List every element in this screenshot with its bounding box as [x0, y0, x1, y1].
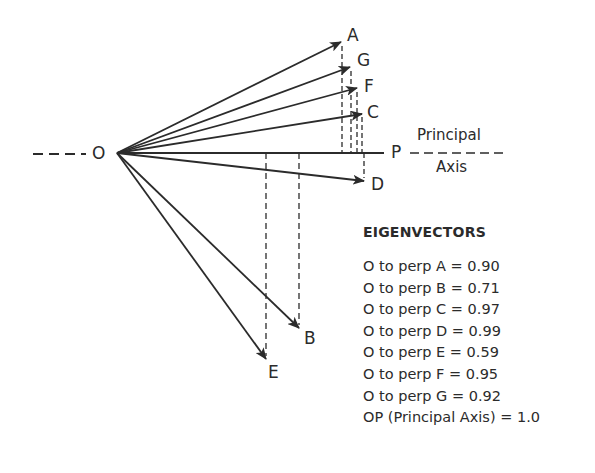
- axis-caption-axis: Axis: [436, 160, 467, 175]
- vector-b: [117, 153, 299, 328]
- origin-label: O: [92, 145, 105, 162]
- legend-row-e: O to perp E = 0.59: [363, 342, 540, 364]
- eigenvectors-legend: EIGENVECTORS O to perp A = 0.90 O to per…: [363, 224, 540, 429]
- vector-g: [117, 67, 350, 153]
- point-label-c: C: [367, 104, 379, 121]
- legend-row-f: O to perp F = 0.95: [363, 364, 540, 386]
- vector-d: [117, 153, 364, 181]
- legend-row-principal-axis: OP (Principal Axis) = 1.0: [363, 407, 540, 429]
- legend-row-a: O to perp A = 0.90: [363, 256, 540, 278]
- legend-row-d: O to perp D = 0.99: [363, 321, 540, 343]
- vector-a: [117, 42, 341, 153]
- vector-e: [117, 153, 266, 359]
- legend-row-g: O to perp G = 0.92: [363, 386, 540, 408]
- axis-end-label-p: P: [391, 144, 401, 161]
- legend-row-b: O to perp B = 0.71: [363, 278, 540, 300]
- point-label-f: F: [364, 78, 374, 95]
- point-label-d: D: [371, 176, 384, 193]
- legend-row-c: O to perp C = 0.97: [363, 299, 540, 321]
- point-label-b: B: [304, 330, 316, 347]
- point-label-g: G: [357, 52, 370, 69]
- axis-caption-principal: Principal: [417, 128, 481, 143]
- point-label-a: A: [347, 27, 359, 44]
- point-label-e: E: [268, 364, 279, 381]
- legend-title: EIGENVECTORS: [363, 224, 540, 240]
